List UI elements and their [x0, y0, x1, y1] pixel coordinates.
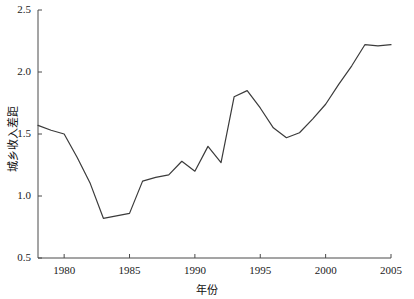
y-tick-label: 2.0	[0, 65, 31, 77]
y-tick-label: 1.0	[0, 189, 31, 201]
x-tick-label: 1995	[238, 264, 282, 276]
data-series-line	[38, 45, 391, 219]
x-tick-label: 1990	[173, 264, 217, 276]
plot-area	[0, 0, 414, 299]
axis-spine	[38, 10, 391, 258]
x-tick-label: 1980	[42, 264, 86, 276]
y-tick-label: 0.5	[0, 251, 31, 263]
x-tick-label: 2000	[304, 264, 348, 276]
y-axis-title: 城乡收入差距	[4, 99, 20, 179]
x-tick-label: 2005	[369, 264, 413, 276]
x-tick-label: 1985	[108, 264, 152, 276]
y-tick-label: 2.5	[0, 3, 31, 15]
tick-marks	[38, 10, 391, 258]
x-axis-title: 年份	[0, 281, 414, 297]
line-chart: 0.51.01.52.02.5 198019851990199520002005…	[0, 0, 414, 299]
